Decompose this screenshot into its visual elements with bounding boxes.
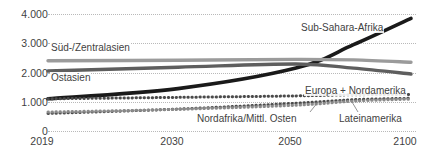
population-projection-chart: 4.000 3.000 2.000 1.000 0 2019 2030 2050… xyxy=(0,0,426,158)
leader-line-lateinamerika xyxy=(0,0,426,158)
